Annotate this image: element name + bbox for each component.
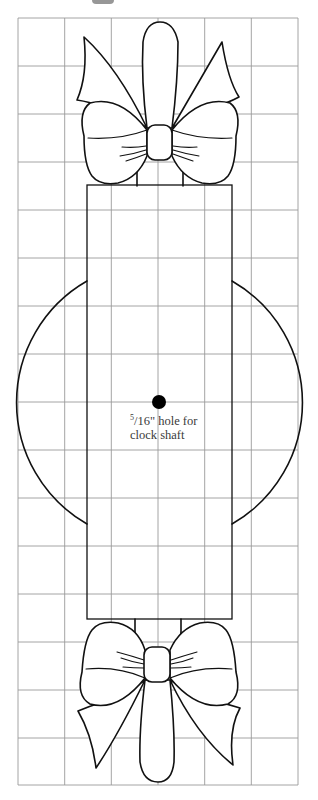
shaft-hole-annotation: 5/16" hole for clock shaft	[130, 411, 197, 442]
annotation-line-1-text: /16" hole for	[134, 414, 197, 428]
bottom-bow	[78, 619, 240, 782]
shaft-hole-dot	[152, 395, 166, 409]
annotation-line-2: clock shaft	[130, 428, 197, 442]
annotation-line-1: 5/16" hole for	[130, 411, 197, 428]
pattern-diagram	[0, 0, 318, 800]
